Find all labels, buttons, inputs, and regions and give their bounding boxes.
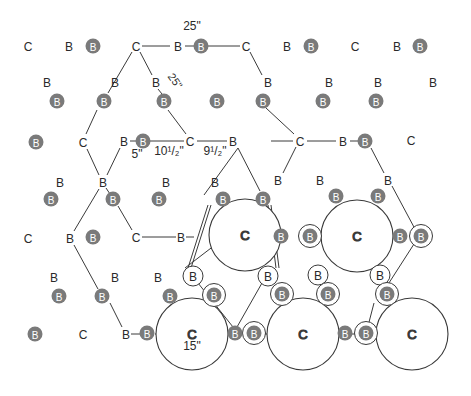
chair-label: B xyxy=(264,270,272,284)
dimension-25-diagonal: 25" xyxy=(166,71,185,91)
ringed-chair-node: B xyxy=(299,225,322,248)
chair-label: B xyxy=(333,192,340,203)
chair-label: B xyxy=(56,292,63,303)
open-chair-node: B xyxy=(308,265,328,285)
b-label: B xyxy=(393,40,401,54)
filled-chair-node: B xyxy=(216,192,231,207)
b-label: B xyxy=(211,176,219,190)
c-label: C xyxy=(407,134,416,148)
chair-label: B xyxy=(90,42,97,53)
table-circle: C xyxy=(209,199,281,271)
ringed-chair-node: B xyxy=(203,284,226,307)
c-label: C xyxy=(132,231,141,245)
chair-label: B xyxy=(232,329,239,340)
filled-chair-node: B xyxy=(163,289,178,304)
b-label: B xyxy=(99,176,107,190)
connector-lines xyxy=(74,46,415,334)
filled-chair-node: B xyxy=(228,326,243,341)
chair-label: B xyxy=(320,97,327,108)
filled-chair-node: B xyxy=(95,289,110,304)
table-label: C xyxy=(298,327,307,342)
b-label: B xyxy=(111,76,119,90)
c-label: C xyxy=(186,135,195,149)
dimension-5: 5" xyxy=(132,147,143,161)
filled-chair-node: B xyxy=(86,230,101,245)
b-label: B xyxy=(65,40,73,54)
b-label: B xyxy=(229,135,237,149)
filled-chair-node: B xyxy=(256,94,271,109)
filled-chair-node: B xyxy=(157,94,172,109)
ringed-chair-node: B xyxy=(410,225,433,248)
b-label: B xyxy=(339,135,347,149)
b-label: B xyxy=(154,271,162,285)
b-label: B xyxy=(274,174,282,188)
table-label: C xyxy=(240,228,249,243)
filled-chair-node: B xyxy=(97,94,112,109)
chair-label: B xyxy=(376,269,384,283)
chair-label: B xyxy=(90,233,97,244)
chair-label: B xyxy=(397,232,404,243)
b-label: B xyxy=(43,76,51,90)
chair-label: B xyxy=(214,97,221,108)
b-label: B xyxy=(384,174,392,188)
chair-label: B xyxy=(32,330,39,341)
b-label: B xyxy=(120,135,128,149)
chair-label: B xyxy=(220,195,227,206)
chair-label: B xyxy=(363,329,370,340)
dimension-25-top: 25" xyxy=(183,19,201,33)
b-label: B xyxy=(316,174,324,188)
ringed-chair-node: B xyxy=(317,283,340,306)
filled-chair-node: B xyxy=(274,229,289,244)
filled-chair-node: B xyxy=(329,189,344,204)
table-circle: C xyxy=(321,200,393,272)
chair-label: B xyxy=(101,97,108,108)
ringed-chair-node: B xyxy=(243,322,266,345)
chair-label: B xyxy=(167,292,174,303)
b-label: B xyxy=(50,271,58,285)
chair-label: B xyxy=(308,42,315,53)
c-label: C xyxy=(132,40,141,54)
chair-label: B xyxy=(110,195,117,206)
ringed-chair-node: B xyxy=(271,283,294,306)
ringed-chair-node: B xyxy=(376,283,399,306)
dimension-10-half: 10¹/₂" xyxy=(154,144,184,158)
b-label: B xyxy=(429,76,437,90)
b-label: B xyxy=(122,328,130,342)
b-label: B xyxy=(177,231,185,245)
b-label: B xyxy=(66,232,74,246)
filled-chair-node: B xyxy=(50,94,65,109)
chair-label: B xyxy=(314,269,322,283)
chair-label: B xyxy=(144,329,151,340)
filled-chair-node: B xyxy=(52,289,67,304)
c-label: C xyxy=(296,135,305,149)
chair-label: B xyxy=(373,97,380,108)
c-label: C xyxy=(79,328,88,342)
table-circle: C xyxy=(267,298,339,370)
chair-label: B xyxy=(260,195,267,206)
filled-chair-node: B xyxy=(194,39,209,54)
chair-label: B xyxy=(417,42,424,53)
c-label: C xyxy=(24,40,33,54)
chair-label: B xyxy=(375,192,382,203)
filled-chair-node: B xyxy=(256,192,271,207)
chair-label: B xyxy=(140,137,147,148)
filled-chair-node: B xyxy=(140,326,155,341)
c-label: C xyxy=(24,232,33,246)
chair-label: B xyxy=(325,290,332,301)
b-label: B xyxy=(162,176,170,190)
open-chair-node: B xyxy=(258,266,278,286)
filled-chair-node: B xyxy=(210,94,225,109)
furniture-layout-diagram: CCCCC BBBB BBBBBBBB BBBBBBBBBBBBBBBBBBBB… xyxy=(0,0,471,396)
chair-label: B xyxy=(189,270,197,284)
chair-label: B xyxy=(384,290,391,301)
chair-label: B xyxy=(251,329,258,340)
ringed-chair-node: B xyxy=(355,322,378,345)
c-label: C xyxy=(79,136,88,150)
filled-chair-node: B xyxy=(86,39,101,54)
b-label: B xyxy=(283,40,291,54)
filled-chair-node: B xyxy=(338,326,353,341)
b-label: B xyxy=(152,76,160,90)
filled-chair-node: B xyxy=(358,134,373,149)
b-label: B xyxy=(174,40,182,54)
chair-label: B xyxy=(211,291,218,302)
